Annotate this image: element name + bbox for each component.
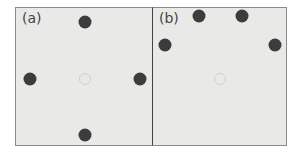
dot [193,10,206,23]
panel-a: (a) [15,7,153,146]
dot [79,129,92,142]
dot [79,16,92,29]
panel-label: (b) [159,10,179,26]
center-ring [79,73,91,85]
panel-label: (a) [22,10,42,26]
dot [159,39,172,52]
panel-b: (b) [152,7,287,146]
center-ring [214,73,226,85]
dot [236,10,249,23]
dot [24,73,37,86]
dot [269,39,282,52]
dot [134,73,147,86]
